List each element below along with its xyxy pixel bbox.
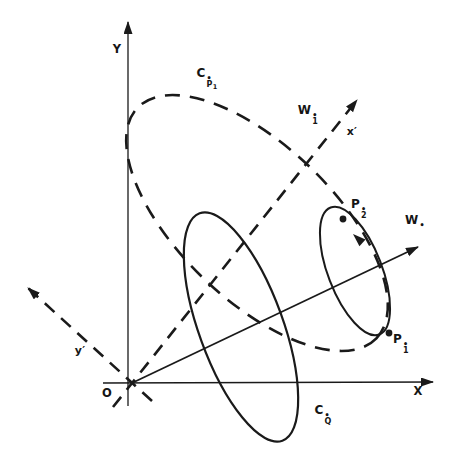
ellipse-small [305, 198, 404, 344]
diagram-stage: Y X O x′ y′ W•1 W• P•2 [0, 0, 460, 466]
ellipse-c-p1 [84, 52, 430, 393]
point-p1 [386, 330, 393, 337]
diagram-svg [0, 0, 460, 466]
w-star-vector [132, 247, 418, 383]
point-p2 [340, 216, 347, 223]
x-prime-axis [113, 100, 357, 407]
ellipse-c-q [160, 199, 322, 455]
x-axis [103, 382, 433, 383]
figure-page: Y X O x′ y′ W•1 W• P•2 [0, 0, 460, 466]
y-prime-axis [28, 288, 152, 401]
